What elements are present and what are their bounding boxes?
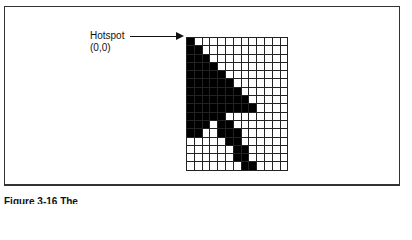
grid-cell xyxy=(248,54,256,62)
grid-cell xyxy=(280,112,288,120)
grid-cell xyxy=(233,103,241,111)
grid-cell xyxy=(256,145,264,153)
grid-cell xyxy=(209,153,217,161)
grid-cell xyxy=(256,87,264,95)
grid-cell xyxy=(225,145,233,153)
grid-cell xyxy=(264,145,272,153)
grid-cell xyxy=(186,120,194,128)
grid-cell xyxy=(241,54,249,62)
grid-cell xyxy=(209,78,217,86)
grid-cell xyxy=(186,128,194,136)
grid-cell xyxy=(217,45,225,53)
grid-cell xyxy=(280,137,288,145)
grid-cell xyxy=(194,145,202,153)
grid-cell xyxy=(217,145,225,153)
grid-cell xyxy=(202,145,210,153)
grid-cell xyxy=(202,112,210,120)
grid-cell xyxy=(194,37,202,45)
grid-cell xyxy=(209,54,217,62)
grid-cell xyxy=(194,128,202,136)
grid-cell xyxy=(264,45,272,53)
grid-cell xyxy=(280,45,288,53)
grid-cell xyxy=(264,87,272,95)
grid-cell xyxy=(272,78,280,86)
grid-cell xyxy=(248,153,256,161)
grid-cell xyxy=(241,112,249,120)
grid-cell xyxy=(186,78,194,86)
grid-cell xyxy=(194,54,202,62)
grid-cell xyxy=(225,78,233,86)
grid-cell xyxy=(233,70,241,78)
grid-cell xyxy=(241,78,249,86)
grid-cell xyxy=(272,137,280,145)
grid-cell xyxy=(272,112,280,120)
grid-cell xyxy=(264,37,272,45)
grid-cell xyxy=(225,87,233,95)
grid-cell xyxy=(256,120,264,128)
grid-cell xyxy=(241,45,249,53)
grid-cell xyxy=(264,103,272,111)
grid-cell xyxy=(264,62,272,70)
grid-cell xyxy=(264,78,272,86)
grid-cell xyxy=(202,95,210,103)
grid-cell xyxy=(186,37,194,45)
grid-cell xyxy=(202,62,210,70)
pointer-line xyxy=(130,36,178,37)
grid-cell xyxy=(248,45,256,53)
grid-cell xyxy=(202,120,210,128)
grid-cell xyxy=(280,70,288,78)
grid-cell xyxy=(272,54,280,62)
grid-cell xyxy=(225,70,233,78)
grid-cell xyxy=(202,37,210,45)
grid-cell xyxy=(186,112,194,120)
grid-cell xyxy=(194,161,202,169)
grid-cell xyxy=(248,145,256,153)
grid-cell xyxy=(194,78,202,86)
grid-cell xyxy=(233,128,241,136)
grid-cell xyxy=(217,161,225,169)
grid-cell xyxy=(202,153,210,161)
grid-cell xyxy=(233,87,241,95)
grid-cell xyxy=(225,103,233,111)
grid-cell xyxy=(241,145,249,153)
hotspot-label: Hotspot (0,0) xyxy=(90,30,124,54)
grid-cell xyxy=(186,54,194,62)
grid-cell xyxy=(272,45,280,53)
grid-cell xyxy=(241,70,249,78)
grid-cell xyxy=(217,128,225,136)
grid-cell xyxy=(233,153,241,161)
grid-cell xyxy=(280,161,288,169)
grid-cell xyxy=(209,37,217,45)
grid-cell xyxy=(217,70,225,78)
grid-cell xyxy=(217,137,225,145)
grid-cell xyxy=(186,87,194,95)
grid-cell xyxy=(186,103,194,111)
grid-cell xyxy=(280,103,288,111)
grid-cell xyxy=(217,112,225,120)
grid-cell xyxy=(264,70,272,78)
figure-caption: Figure 3-16 The xyxy=(4,196,78,204)
grid-cell xyxy=(264,54,272,62)
grid-cell xyxy=(194,103,202,111)
grid-cell xyxy=(186,153,194,161)
grid-cell xyxy=(248,120,256,128)
grid-cell xyxy=(186,95,194,103)
grid-cell xyxy=(256,103,264,111)
grid-cell xyxy=(241,128,249,136)
grid-cell xyxy=(233,145,241,153)
grid-cell xyxy=(280,54,288,62)
grid-cell xyxy=(280,128,288,136)
grid-cell xyxy=(225,128,233,136)
grid-cell xyxy=(209,45,217,53)
grid-cell xyxy=(233,54,241,62)
grid-cell xyxy=(256,70,264,78)
grid-cell xyxy=(280,145,288,153)
grid-cell xyxy=(209,120,217,128)
grid-cell xyxy=(248,137,256,145)
grid-cell xyxy=(272,62,280,70)
grid-cell xyxy=(194,120,202,128)
grid-cell xyxy=(225,120,233,128)
grid-cell xyxy=(202,70,210,78)
grid-cell xyxy=(272,37,280,45)
grid-cell xyxy=(264,137,272,145)
